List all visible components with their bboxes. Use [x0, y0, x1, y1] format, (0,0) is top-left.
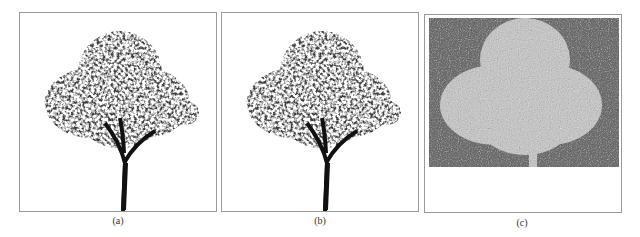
noise-map-image-c [425, 15, 621, 212]
caption-c: (c) [502, 217, 542, 228]
panel-a [19, 12, 217, 212]
panel-b [221, 12, 419, 212]
panel-c [424, 14, 622, 213]
caption-a: (a) [98, 215, 138, 226]
caption-b: (b) [300, 215, 340, 226]
tree-image-b [222, 13, 418, 211]
tree-image-a [20, 13, 216, 211]
